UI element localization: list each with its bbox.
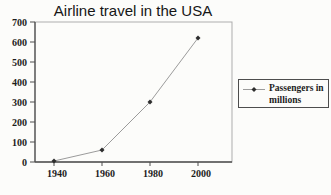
- legend-diamond-marker: [252, 87, 257, 92]
- series-line: [54, 38, 198, 161]
- legend-label: Passengers in millions: [269, 83, 327, 107]
- x-tick-label: 1940: [47, 168, 67, 179]
- y-tick-label: 100: [12, 137, 27, 148]
- y-tick-label: 300: [12, 97, 27, 108]
- legend-series-marker-icon: [242, 84, 267, 95]
- y-tick-label: 700: [12, 17, 27, 28]
- y-tick-label: 400: [12, 77, 27, 88]
- y-tick-label: 600: [12, 37, 27, 48]
- x-tick-label: 1980: [143, 168, 163, 179]
- x-tick-label: 2000: [191, 168, 211, 179]
- y-tick-label: 500: [12, 57, 27, 68]
- plot-border: [35, 22, 232, 162]
- y-tick-label: 0: [22, 157, 27, 168]
- airline-travel-chart-figure: Airline travel in the USA 01002003004005…: [0, 0, 331, 195]
- data-point-marker: [52, 159, 57, 164]
- legend-box: Passengers in millions: [238, 79, 329, 108]
- x-tick-label: 1960: [95, 168, 115, 179]
- y-tick-label: 200: [12, 117, 27, 128]
